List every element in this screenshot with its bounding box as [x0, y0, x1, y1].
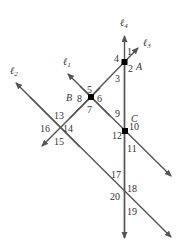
angle-20: 20: [110, 191, 120, 202]
angle-11: 11: [127, 143, 137, 154]
angle-8: 8: [77, 93, 82, 104]
label-l2: ℓ2: [10, 65, 18, 78]
angle-17: 17: [111, 169, 121, 180]
label-point-B: B: [66, 92, 72, 103]
angle-16: 16: [40, 123, 50, 134]
angle-1: 1: [127, 46, 132, 57]
angle-5: 5: [87, 84, 92, 95]
angle-10: 10: [129, 121, 139, 132]
angle-9: 9: [115, 108, 120, 119]
label-point-A: A: [135, 61, 143, 72]
angle-18: 18: [127, 183, 137, 194]
angle-4: 4: [114, 53, 119, 64]
angle-3: 3: [115, 73, 120, 84]
angle-7: 7: [87, 104, 92, 115]
label-l3: ℓ3: [143, 37, 151, 50]
geometry-diagram: ℓ4 ℓ3 ℓ1 ℓ2 A B C 1 2 3 4 5 6 7 8 9 10 1…: [0, 0, 180, 248]
angle-2: 2: [128, 63, 133, 74]
angle-12: 12: [112, 130, 122, 141]
angle-15: 15: [54, 136, 64, 147]
angle-14: 14: [63, 123, 73, 134]
angle-13: 13: [54, 110, 64, 121]
point-C: [122, 128, 128, 134]
label-l4: ℓ4: [120, 17, 128, 30]
angle-6: 6: [97, 93, 102, 104]
point-A: [122, 59, 128, 65]
angle-19: 19: [127, 206, 137, 217]
label-l1: ℓ1: [63, 56, 71, 69]
